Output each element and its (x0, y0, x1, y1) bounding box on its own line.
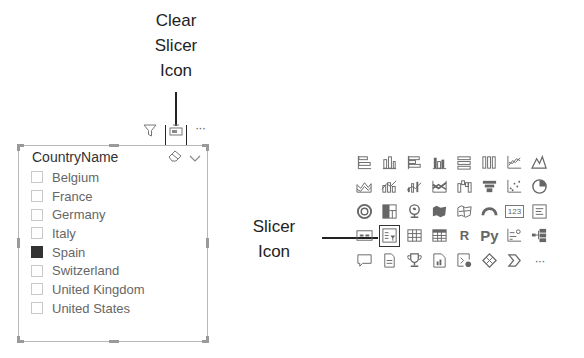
slicer-icon (381, 227, 398, 244)
slicer-item-united-states[interactable]: United States (31, 299, 145, 318)
viz-r-script-visual-button[interactable]: R (452, 224, 477, 249)
viz-smart-narrative-button[interactable] (402, 248, 427, 273)
paginated-report-icon (381, 252, 398, 269)
viz-100-stacked-column-chart-button[interactable] (477, 150, 502, 175)
viz-power-apps-button[interactable] (427, 248, 452, 273)
r-script-visual-icon: R (460, 228, 469, 243)
viz-line-chart-button[interactable] (502, 150, 527, 175)
viz-python-visual-button[interactable]: Py (477, 224, 502, 249)
scatter-chart-icon (506, 178, 523, 195)
viz-funnel-chart-button[interactable] (477, 175, 502, 200)
matrix-icon (431, 227, 448, 244)
line-and-stacked-column-chart-icon (381, 178, 398, 195)
checkbox[interactable] (31, 209, 43, 221)
checkbox-checked[interactable] (31, 246, 43, 258)
resize-handle-bl-v[interactable] (17, 336, 20, 343)
callout-line-2: Slicer (146, 33, 206, 58)
viz-multi-row-card-button[interactable] (527, 199, 552, 224)
resize-handle-left[interactable] (17, 238, 20, 248)
kpi-icon (356, 227, 373, 244)
viz-clustered-bar-chart-button[interactable] (402, 150, 427, 175)
slicer-item-spain[interactable]: Spain (31, 243, 145, 262)
item-label: United Kingdom (52, 282, 145, 297)
chevron-down-icon[interactable] (189, 149, 201, 167)
checkbox[interactable] (31, 283, 43, 295)
multi-row-card-icon (531, 203, 548, 220)
checkbox[interactable] (31, 190, 43, 202)
clear-slicer-highlight (165, 125, 187, 147)
resize-handle-right[interactable] (206, 238, 209, 248)
power-apps-icon (431, 252, 448, 269)
viz-kpi-button[interactable] (352, 224, 377, 249)
slicer-item-switzerland[interactable]: Switzerland (31, 261, 145, 280)
card-icon: 123 (505, 205, 524, 218)
clustered-bar-chart-icon (406, 154, 423, 171)
resize-handle-tl-v[interactable] (17, 144, 20, 151)
viz-donut-chart-button[interactable] (352, 199, 377, 224)
eraser-icon[interactable] (167, 149, 183, 167)
key-influencers-icon (506, 227, 523, 244)
slicer-item-belgium[interactable]: Belgium (31, 168, 145, 187)
viz-area-chart-button[interactable] (527, 150, 552, 175)
resize-handle-br-v[interactable] (206, 336, 209, 343)
viz-slicer-button[interactable] (377, 224, 402, 249)
viz-filled-map-button[interactable] (427, 199, 452, 224)
viz-100-stacked-bar-chart-button[interactable] (452, 150, 477, 175)
slicer-item-italy[interactable]: Italy (31, 224, 145, 243)
viz-shape-map-button[interactable] (452, 199, 477, 224)
100-stacked-column-chart-icon (481, 154, 498, 171)
viz-table-button[interactable] (402, 224, 427, 249)
resize-handle-top[interactable] (109, 144, 119, 147)
viz-more-visuals-button[interactable]: ··· (527, 248, 552, 273)
viz-custom-visual-button[interactable] (502, 248, 527, 273)
resize-handle-bottom[interactable] (109, 340, 119, 343)
slicer-item-france[interactable]: France (31, 187, 145, 206)
viz-waterfall-chart-button[interactable] (452, 175, 477, 200)
viz-gauge-button[interactable] (477, 199, 502, 224)
filled-map-icon (431, 203, 448, 220)
more-options-icon[interactable]: ··· (192, 119, 208, 135)
100-stacked-bar-chart-icon (456, 154, 473, 171)
filter-icon[interactable] (142, 122, 158, 138)
decomposition-tree-icon (531, 227, 548, 244)
viz-treemap-button[interactable] (377, 199, 402, 224)
viz-clustered-column-chart-button[interactable] (427, 150, 452, 175)
item-label: Germany (52, 207, 105, 222)
waterfall-chart-icon (456, 178, 473, 195)
python-visual-icon: Py (480, 227, 498, 244)
ribbon-chart-icon (431, 178, 448, 195)
donut-chart-icon (356, 203, 373, 220)
viz-stacked-column-chart-button[interactable] (377, 150, 402, 175)
callout-line-1: Clear (146, 8, 206, 33)
viz-q-and-a-button[interactable] (352, 248, 377, 273)
slicer-item-united-kingdom[interactable]: United Kingdom (31, 280, 145, 299)
checkbox[interactable] (31, 265, 43, 277)
checkbox[interactable] (31, 227, 43, 239)
viz-stacked-area-chart-button[interactable] (352, 175, 377, 200)
checkbox[interactable] (31, 171, 43, 183)
item-label: United States (52, 301, 130, 316)
viz-pie-chart-button[interactable] (527, 175, 552, 200)
slicer-item-germany[interactable]: Germany (31, 205, 145, 224)
resize-handle-tr-v[interactable] (206, 144, 209, 151)
viz-paginated-report-button[interactable] (377, 248, 402, 273)
viz-decomposition-tree-button[interactable] (527, 224, 552, 249)
item-label: Switzerland (52, 263, 119, 278)
viz-line-and-stacked-column-chart-button[interactable] (377, 175, 402, 200)
checkbox[interactable] (31, 302, 43, 314)
viz-line-and-clustered-column-chart-button[interactable] (402, 175, 427, 200)
viz-scatter-chart-button[interactable] (502, 175, 527, 200)
country-slicer[interactable]: CountryName Belgium France Germany Italy… (18, 145, 208, 342)
viz-card-button[interactable]: 123 (502, 199, 527, 224)
funnel-chart-icon (481, 178, 498, 195)
viz-ribbon-chart-button[interactable] (427, 175, 452, 200)
viz-stacked-bar-chart-button[interactable] (352, 150, 377, 175)
viz-power-automate-button[interactable] (452, 248, 477, 273)
item-label: Italy (52, 226, 76, 241)
area-chart-icon (531, 154, 548, 171)
viz-key-influencers-button[interactable] (502, 224, 527, 249)
viz-matrix-button[interactable] (427, 224, 452, 249)
viz-arcgis-maps-button[interactable] (477, 248, 502, 273)
viz-map-button[interactable] (402, 199, 427, 224)
visualizations-grid: 123RPy··· (352, 150, 552, 273)
